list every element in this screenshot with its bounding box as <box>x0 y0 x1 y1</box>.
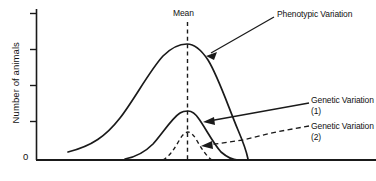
variation-distribution-chart: Number of animals 0 Mean Phenotypic Vari… <box>0 0 376 181</box>
genetic-variation-2-label: Genetic Variation (2) <box>311 121 375 142</box>
arrowhead-genetic-2-icon <box>201 141 213 149</box>
mean-label: Mean <box>173 9 194 19</box>
y-axis-zero-label: 0 <box>23 152 28 162</box>
curve-phenotypic-variation <box>68 44 248 159</box>
y-axis-title: Number of animals <box>11 23 21 143</box>
chart-canvas <box>0 0 376 181</box>
callout-genetic-variation-1 <box>203 103 309 125</box>
y-axis-ticks <box>30 14 37 122</box>
genetic-variation-1-label: Genetic Variation (1) <box>311 95 375 116</box>
phenotypic-variation-label: Phenotypic Variation <box>277 9 372 20</box>
callout-phenotypic-variation <box>206 17 274 60</box>
arrowhead-genetic-1-icon <box>203 117 215 125</box>
callout-genetic-variation-2 <box>201 126 309 149</box>
